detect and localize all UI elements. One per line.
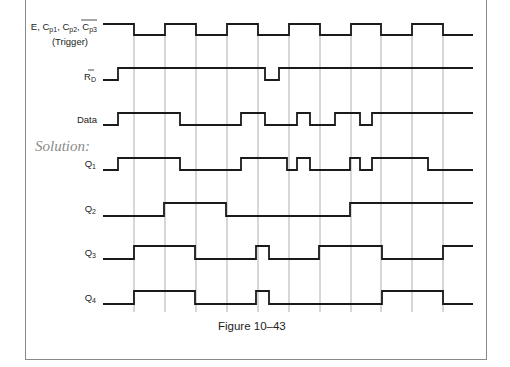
q3-waveform [103,246,473,259]
timing-diagram: E, Cp1, Cp2, Cp3 (Trigger) RD Data Solut… [0,0,510,367]
data-label: Data [77,114,98,125]
solution-label: Solution: [35,138,90,154]
q2-label: Q2 [85,203,96,215]
trigger-waveform [103,24,473,35]
data-waveform [103,113,473,125]
q4-waveform [103,291,473,304]
trigger-sublabel: (Trigger) [52,36,88,47]
trigger-label: E, Cp1, Cp2, Cp3 [31,21,97,34]
reset-waveform [103,68,473,80]
q1-waveform [103,158,473,170]
waveforms [103,24,473,304]
q1-label: Q1 [85,158,96,170]
q2-waveform [103,203,473,216]
figure-caption: Figure 10–43 [218,320,286,332]
reset-label: RD [84,71,96,83]
q3-label: Q3 [85,247,96,259]
q4-label: Q4 [85,292,96,304]
